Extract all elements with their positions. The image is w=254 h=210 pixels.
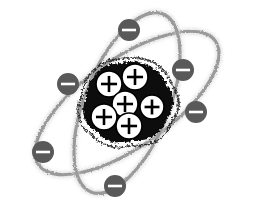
electron — [104, 175, 126, 197]
proton — [122, 64, 148, 90]
electron — [172, 59, 194, 81]
electron — [118, 19, 140, 41]
proton — [91, 104, 117, 130]
electron — [57, 73, 79, 95]
proton — [116, 113, 142, 139]
atom-illustration — [0, 0, 254, 210]
proton — [140, 95, 164, 119]
electron — [185, 101, 207, 123]
electron — [32, 141, 54, 163]
atom-diagram: Atom model diagram — [0, 0, 254, 210]
